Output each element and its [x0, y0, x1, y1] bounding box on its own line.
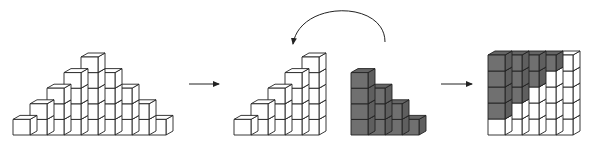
cube-front-face: [488, 87, 505, 103]
right-staircase-figure: [351, 69, 426, 135]
diagram-canvas: [0, 0, 594, 150]
arrows: [189, 11, 472, 84]
cube-front-face: [488, 103, 505, 119]
cube-front-face: [351, 104, 368, 120]
cube-front-face: [351, 119, 368, 135]
cube-front-face: [351, 88, 368, 104]
cube-front-face: [234, 119, 251, 135]
pyramid-figure: [13, 53, 173, 135]
cube-front-face: [351, 73, 368, 89]
left-staircase-figure: [234, 53, 326, 135]
rotate-arrow-icon: [293, 11, 385, 44]
cube-front-face: [488, 119, 505, 135]
combined-square-figure: [488, 51, 580, 135]
cube-front-face: [488, 55, 505, 71]
cube-front-face: [488, 71, 505, 87]
cube-front-face: [13, 119, 30, 135]
